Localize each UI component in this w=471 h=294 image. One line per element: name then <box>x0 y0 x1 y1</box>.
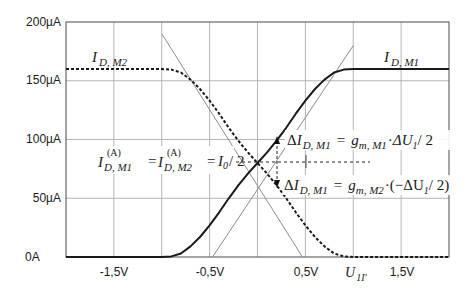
svg-text:I0/ 2: I0/ 2 <box>217 153 244 171</box>
delta-up-equation: ΔID, M1=gm, M1·ΔU1/ 2 <box>285 130 453 151</box>
x-tick-0.5: 0,5V <box>294 265 319 279</box>
svg-text:(A): (A) <box>167 147 181 159</box>
delta-down-equation: ΔID, M1=gm, M2·(−ΔU1/ 2) <box>283 175 453 196</box>
y-tick-0: 0A <box>25 250 40 264</box>
operating-point-equation: (A) ID, M1 = (A) ID, M2 = I0/ 2 <box>97 146 244 174</box>
chart: 200µA 150µA 100µA 50µA 0A -1,5V -0,5V 0,… <box>0 0 471 294</box>
y-tick-100: 100µA <box>26 132 61 146</box>
svg-text:(A): (A) <box>107 147 121 159</box>
label-id-m2: ID, M2 <box>91 49 128 68</box>
svg-text:=: = <box>148 153 156 169</box>
y-tick-200: 200µA <box>26 15 61 29</box>
x-tick-1.5: 1,5V <box>390 265 415 279</box>
x-tick-neg0.5: -0,5V <box>196 265 225 279</box>
y-tick-50: 50µA <box>33 191 61 205</box>
x-axis-variable-label: U1I' <box>345 265 367 283</box>
tangent-m2-line <box>162 34 303 257</box>
x-tick-neg1.5: -1,5V <box>100 265 129 279</box>
y-tick-150: 150µA <box>26 73 61 87</box>
svg-text:=: = <box>207 153 215 169</box>
